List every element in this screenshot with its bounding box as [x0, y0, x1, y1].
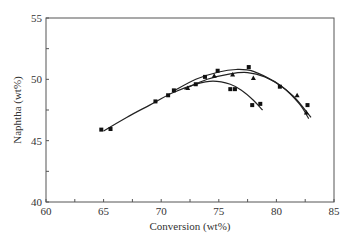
y-tick-label: 55 — [31, 12, 43, 24]
x-tick-label: 80 — [271, 205, 283, 217]
x-axis-label: Conversion (wt%) — [150, 220, 231, 233]
data-point — [194, 82, 198, 86]
data-point — [247, 65, 251, 69]
data-point — [233, 87, 237, 91]
x-tick-label: 65 — [98, 205, 110, 217]
data-point — [109, 127, 113, 131]
data-point — [216, 69, 220, 73]
y-tick-label: 45 — [31, 135, 43, 147]
chart: 606570758085 40455055 Conversion (wt%) N… — [0, 0, 354, 242]
data-point — [172, 88, 176, 92]
data-point — [99, 128, 103, 132]
data-point — [203, 75, 207, 79]
x-tick-label: 60 — [41, 205, 53, 217]
plot-area — [46, 18, 334, 202]
data-point — [153, 99, 157, 103]
x-tick-label: 70 — [156, 205, 168, 217]
data-point — [166, 93, 170, 97]
x-tick-label: 75 — [213, 205, 225, 217]
y-axis-label: Naphtha (wt%) — [11, 76, 24, 144]
x-tick-label: 85 — [329, 205, 341, 217]
y-tick-label: 50 — [31, 73, 43, 85]
data-point — [306, 103, 310, 107]
data-point — [278, 85, 282, 89]
y-tick-label: 40 — [31, 196, 43, 208]
data-point — [258, 102, 262, 106]
data-point — [250, 103, 254, 107]
data-point — [228, 87, 232, 91]
